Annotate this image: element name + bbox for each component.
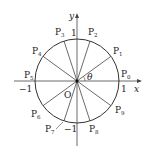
point-label-p7: P7 <box>45 124 55 135</box>
y-axis-arrow-icon <box>75 13 79 18</box>
point-label-p1: P1 <box>113 46 123 57</box>
angle-arc <box>84 76 86 81</box>
point-label-p5: P5 <box>24 70 34 81</box>
x-axis-arrow-icon <box>137 79 142 83</box>
point-label-p2: P2 <box>88 27 98 38</box>
angle-label: θ <box>87 72 93 82</box>
point-label-p9: P9 <box>115 105 125 116</box>
tick-y-pos: 1 <box>71 28 77 38</box>
tick-x-pos: 1 <box>121 84 127 94</box>
point-label-p8: P8 <box>89 124 99 135</box>
y-axis-label: y <box>68 11 75 21</box>
tick-x-neg: −1 <box>19 84 32 94</box>
point-label-p3: P3 <box>55 27 65 38</box>
origin-label: O <box>64 90 71 100</box>
unit-circle-diagram: θ O x y 1 −1 1 −1 P0 P1 P2 P3 P4 P5 P6 P… <box>0 0 150 148</box>
p7-pointer <box>56 122 63 129</box>
point-label-p6: P6 <box>31 109 41 120</box>
x-axis-label: x <box>134 84 139 94</box>
point-label-p0: P0 <box>121 69 131 80</box>
point-label-p4: P4 <box>32 46 42 57</box>
origin-dot <box>75 79 78 82</box>
tick-y-neg: −1 <box>64 124 77 134</box>
